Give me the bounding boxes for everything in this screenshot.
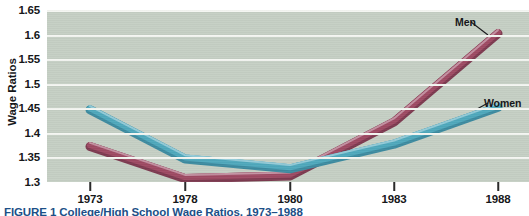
gridline — [47, 133, 529, 135]
x-tick-label: 1983 — [381, 193, 406, 205]
men-series-highlight — [90, 30, 498, 175]
women-series-label: Women — [484, 97, 521, 109]
gridline — [47, 10, 529, 12]
figure-container: Wage Ratios 1.65 1.6 1.55 1.5 1.45 1.4 1… — [0, 0, 529, 216]
x-tick-mark — [393, 182, 395, 191]
y-tick-label: 1.6 — [25, 29, 40, 41]
gridline — [47, 157, 529, 159]
y-tick-label: 1.4 — [25, 127, 40, 139]
gridline — [47, 108, 529, 110]
men-series-label: Men — [455, 16, 476, 28]
x-tick-mark — [89, 182, 91, 191]
gridline — [47, 35, 529, 37]
gridline — [47, 84, 529, 86]
x-tick-label: 1973 — [77, 193, 102, 205]
y-tick-label: 1.5 — [25, 78, 40, 90]
gridline — [47, 59, 529, 61]
x-tick-label: 1978 — [172, 193, 197, 205]
y-tick-label: 1.45 — [18, 102, 40, 114]
y-tick-label: 1.35 — [18, 151, 40, 163]
x-tick-label: 1980 — [277, 193, 302, 205]
y-axis-ticks: 1.65 1.6 1.55 1.5 1.45 1.4 1.35 1.3 — [0, 0, 44, 216]
plot-area — [47, 10, 529, 182]
x-tick-mark — [184, 182, 186, 191]
y-tick-label: 1.65 — [18, 4, 40, 16]
x-tick-mark — [497, 182, 499, 191]
men-series-line — [90, 32, 498, 177]
figure-caption: FIGURE 1 College/High School Wage Ratios… — [4, 206, 303, 216]
x-tick-mark — [289, 182, 291, 191]
y-tick-label: 1.55 — [18, 53, 40, 65]
y-tick-label: 1.3 — [25, 176, 40, 188]
x-tick-label: 1988 — [485, 193, 510, 205]
